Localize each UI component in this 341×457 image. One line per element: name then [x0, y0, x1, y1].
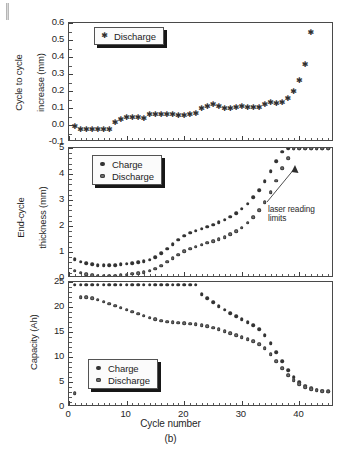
y-axis-minor-tick: [69, 392, 72, 393]
y-axis-tick: [69, 252, 73, 253]
y-axis-minor-tick: [69, 49, 72, 50]
x-axis-tick: [184, 136, 185, 140]
y-axis-minor-tick: [69, 100, 72, 101]
x-axis-minor-tick: [317, 138, 318, 141]
x-axis-minor-tick: [225, 274, 226, 277]
x-axis-tick: [127, 136, 128, 140]
y-axis-minor-tick: [69, 32, 72, 33]
x-axis-minor-tick: [271, 403, 272, 406]
data-point-discharge: ✱: [296, 77, 303, 85]
y-axis-minor-tick: [69, 362, 72, 363]
x-axis-minor-tick: [282, 138, 283, 141]
x-axis-minor-tick: [161, 138, 162, 141]
data-point-charge: [79, 283, 83, 287]
data-point-charge: [217, 221, 221, 225]
data-point-charge: [90, 283, 94, 287]
data-point-discharge: [108, 274, 112, 276]
x-axis-minor-tick: [196, 403, 197, 406]
y-axis-minor-tick: [69, 66, 72, 67]
x-axis-minor-tick: [144, 138, 145, 141]
data-point-discharge: [73, 269, 77, 273]
x-axis-minor-tick: [150, 274, 151, 277]
x-axis-tick: [69, 272, 70, 276]
x-axis-minor-tick: [265, 138, 266, 141]
data-point-discharge: [171, 320, 175, 324]
data-point-discharge: [194, 245, 198, 249]
data-point-charge: [165, 283, 169, 287]
data-point-charge: [96, 283, 100, 287]
y-axis-tick: [69, 57, 73, 58]
y-axis-tick: [69, 91, 73, 92]
data-point-charge: [142, 260, 146, 264]
data-point-discharge: [286, 373, 290, 377]
data-point-charge: [246, 320, 250, 324]
legend-marker-dot-discharge-icon: [98, 174, 107, 178]
data-point-discharge: [326, 148, 330, 150]
data-point-discharge: [113, 304, 117, 308]
data-point-charge: [102, 283, 106, 287]
data-point-charge: [125, 283, 129, 287]
data-point-charge: [275, 350, 279, 354]
data-point-discharge: [119, 306, 123, 310]
x-axis-minor-tick: [144, 274, 145, 277]
y-axis-minor-tick: [69, 153, 72, 154]
x-axis-minor-tick: [196, 138, 197, 141]
data-point-discharge: [229, 331, 233, 335]
x-axis-minor-tick: [219, 403, 220, 406]
y-axis-tick-label: 15: [34, 326, 64, 336]
data-point-discharge: [84, 295, 88, 299]
data-point-charge: [113, 283, 117, 287]
x-axis-tick: [242, 272, 243, 276]
data-point-discharge: [102, 300, 106, 304]
data-point-charge: [182, 234, 186, 238]
x-axis-minor-tick: [322, 138, 323, 141]
data-point-discharge: [154, 317, 158, 321]
data-point-discharge: [73, 391, 77, 395]
panel-top-legend: ✱ Discharge: [94, 27, 164, 45]
data-point-discharge: [131, 310, 135, 314]
x-axis-minor-tick: [248, 403, 249, 406]
data-point-charge: [280, 150, 284, 154]
data-point-discharge: [211, 326, 215, 330]
x-axis-tick: [299, 136, 300, 140]
data-point-discharge: [257, 209, 261, 213]
x-axis-minor-tick: [109, 403, 110, 406]
x-axis-minor-tick: [236, 274, 237, 277]
x-axis-minor-tick: [81, 138, 82, 141]
legend-item-discharge: Discharge: [94, 374, 150, 386]
panel-bottom-legend: Charge Discharge: [88, 359, 158, 389]
data-point-charge: [269, 341, 273, 345]
x-axis-minor-tick: [75, 138, 76, 141]
data-point-discharge: [188, 322, 192, 326]
x-axis-minor-tick: [282, 274, 283, 277]
data-point-discharge: [252, 339, 256, 343]
y-axis-minor-tick: [69, 397, 72, 398]
data-point-discharge: [142, 270, 146, 274]
data-point-charge: [119, 283, 123, 287]
data-point-charge: [177, 283, 181, 287]
data-point-discharge: [246, 221, 250, 225]
data-point-discharge: [136, 271, 140, 275]
legend-label-discharge: Discharge: [114, 31, 156, 42]
x-axis-minor-tick: [190, 138, 191, 141]
panel-middle-legend: Charge Discharge: [92, 155, 162, 185]
data-point-discharge: [246, 337, 250, 341]
data-point-charge: [234, 314, 238, 318]
data-point-charge: [142, 283, 146, 287]
data-point-charge: [252, 196, 256, 200]
data-point-charge: [257, 327, 261, 331]
x-axis-minor-tick: [207, 403, 208, 406]
data-point-discharge: [211, 239, 215, 243]
data-point-discharge: [177, 321, 181, 325]
y-axis-minor-tick: [69, 367, 72, 368]
x-axis-minor-tick: [202, 138, 203, 141]
x-axis-minor-tick: [207, 138, 208, 141]
data-point-discharge: [223, 329, 227, 333]
x-axis-minor-tick: [104, 138, 105, 141]
x-axis-minor-tick: [294, 274, 295, 277]
data-point-discharge: [280, 366, 284, 370]
data-point-discharge: [234, 333, 238, 337]
data-point-discharge: ✱: [302, 61, 309, 69]
data-point-charge: [240, 317, 244, 321]
x-axis-minor-tick: [167, 274, 168, 277]
